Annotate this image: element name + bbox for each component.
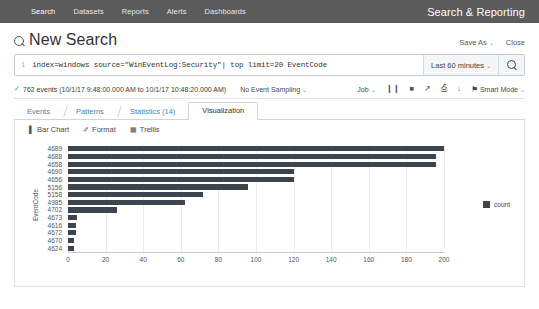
bar[interactable] bbox=[68, 223, 76, 228]
bar[interactable] bbox=[68, 162, 436, 167]
y-axis-tick-label: 4690 bbox=[15, 168, 65, 176]
bar[interactable] bbox=[68, 207, 117, 212]
search-mode-label: Smart Mode bbox=[480, 86, 518, 93]
y-axis-tick-label: 4656 bbox=[15, 176, 65, 184]
y-axis-tick-label: 4673 bbox=[15, 214, 65, 222]
bar-row bbox=[68, 168, 444, 176]
chevron-down-icon: ⌄ bbox=[520, 86, 525, 93]
legend-swatch bbox=[483, 201, 490, 208]
format-button[interactable]: ✐ Format bbox=[83, 125, 116, 134]
chevron-down-icon: ⌄ bbox=[486, 62, 491, 69]
bar[interactable] bbox=[68, 238, 74, 243]
chevron-down-icon: ⌄ bbox=[371, 86, 376, 93]
time-range-label: Last 60 minutes bbox=[431, 61, 484, 70]
event-count-text: 762 events (10/1/17 9:48:00.000 AM to 10… bbox=[23, 86, 226, 93]
tab-patterns[interactable]: Patterns bbox=[63, 104, 117, 120]
x-axis: 020406080100120140160180200 bbox=[68, 252, 444, 266]
nav-item-alerts[interactable]: Alerts bbox=[158, 3, 196, 20]
grid-icon: ▦ bbox=[130, 126, 137, 134]
y-axis-tick-label: 4658 bbox=[15, 160, 65, 168]
chart-toolbar: ▌ Bar Chart ✐ Format ▦ Trellis bbox=[15, 120, 524, 139]
bolt-icon: ⚑ bbox=[471, 85, 478, 94]
nav-item-reports[interactable]: Reports bbox=[113, 3, 158, 20]
nav-item-dashboards[interactable]: Dashboards bbox=[196, 3, 255, 20]
app-name: Search & Reporting bbox=[427, 6, 525, 18]
x-axis-tick-label: 0 bbox=[66, 256, 70, 263]
bar[interactable] bbox=[68, 246, 74, 251]
chart-area: EventCode 468946884658469046565156515849… bbox=[15, 139, 524, 271]
bar-series bbox=[68, 145, 444, 252]
bar-row bbox=[68, 198, 444, 206]
share-icon[interactable]: ↗ bbox=[424, 85, 431, 93]
tab-visualization[interactable]: Visualization bbox=[188, 102, 258, 120]
pause-icon[interactable]: ❙❙ bbox=[386, 85, 400, 93]
x-axis-tick-label: 20 bbox=[102, 256, 109, 263]
bar[interactable] bbox=[68, 177, 294, 182]
y-axis-tick-label: 4689 bbox=[15, 145, 65, 153]
query-text: index=windows source="WinEventLog:Securi… bbox=[32, 61, 327, 69]
y-axis-tick-label: 4624 bbox=[15, 244, 65, 252]
page-body: New Search Save As⌄ Close 1 index=window… bbox=[0, 23, 539, 287]
y-axis-tick-label: 4616 bbox=[15, 221, 65, 229]
bar[interactable] bbox=[68, 215, 77, 220]
chevron-down-icon: ⌄ bbox=[489, 40, 494, 46]
search-mode-selector[interactable]: ⚑Smart Mode⌄ bbox=[471, 85, 525, 94]
job-button[interactable]: Job⌄ bbox=[357, 86, 375, 93]
result-tabs: Events Patterns Statistics (14) Visualiz… bbox=[14, 103, 525, 120]
bar[interactable] bbox=[68, 230, 76, 235]
save-as-label: Save As bbox=[459, 38, 487, 47]
chart-type-button[interactable]: ▌ Bar Chart bbox=[29, 125, 69, 134]
status-bar: ✓ 762 events (10/1/17 9:48:00.000 AM to … bbox=[14, 80, 525, 99]
trellis-label: Trellis bbox=[140, 125, 160, 134]
stop-icon[interactable]: ■ bbox=[410, 85, 415, 93]
y-axis-tick-label: 4985 bbox=[15, 198, 65, 206]
bar-row bbox=[68, 237, 444, 245]
top-navbar: Search Datasets Reports Alerts Dashboard… bbox=[0, 0, 539, 23]
print-icon[interactable]: ⎙ bbox=[441, 85, 447, 93]
x-axis-tick-label: 120 bbox=[288, 256, 299, 263]
legend-label: count bbox=[494, 201, 510, 208]
bar-row bbox=[68, 214, 444, 222]
tab-events[interactable]: Events bbox=[14, 104, 63, 120]
event-sampling-dropdown[interactable]: No Event Sampling⌄ bbox=[240, 86, 307, 93]
visualization-panel: ▌ Bar Chart ✐ Format ▦ Trellis EventCode… bbox=[14, 120, 525, 287]
status-actions: Job⌄ ❙❙ ■ ↗ ⎙ ↓ ⚑Smart Mode⌄ bbox=[357, 85, 525, 94]
y-axis-tick-label: 4670 bbox=[15, 237, 65, 245]
close-button[interactable]: Close bbox=[506, 38, 525, 47]
trellis-button[interactable]: ▦ Trellis bbox=[130, 125, 160, 134]
y-axis-ticks: 4689468846584690465651565158498547024673… bbox=[15, 145, 65, 252]
bar[interactable] bbox=[68, 146, 444, 151]
check-icon: ✓ bbox=[14, 85, 20, 93]
tab-statistics[interactable]: Statistics (14) bbox=[117, 104, 188, 120]
title-row: New Search Save As⌄ Close bbox=[14, 23, 525, 52]
bar[interactable] bbox=[68, 169, 294, 174]
nav-item-search[interactable]: Search bbox=[22, 3, 64, 20]
nav-item-datasets[interactable]: Datasets bbox=[64, 3, 112, 20]
x-axis-tick-label: 80 bbox=[215, 256, 222, 263]
time-range-picker[interactable]: Last 60 minutes⌄ bbox=[423, 55, 498, 75]
bar-row bbox=[68, 176, 444, 184]
search-icon bbox=[507, 60, 517, 70]
bar-row bbox=[68, 244, 444, 252]
bar[interactable] bbox=[68, 154, 436, 159]
y-axis-tick-label: 5158 bbox=[15, 191, 65, 199]
run-search-button[interactable] bbox=[498, 55, 524, 75]
x-axis-tick-label: 200 bbox=[439, 256, 450, 263]
bar-row bbox=[68, 229, 444, 237]
pencil-icon: ✐ bbox=[83, 126, 89, 134]
bar[interactable] bbox=[68, 192, 203, 197]
bar[interactable] bbox=[68, 200, 185, 205]
save-as-button[interactable]: Save As⌄ bbox=[459, 38, 494, 47]
bar-row bbox=[68, 183, 444, 191]
line-number: 1 bbox=[21, 61, 25, 69]
query-input[interactable]: 1 index=windows source="WinEventLog:Secu… bbox=[15, 55, 423, 75]
x-axis-tick-label: 180 bbox=[401, 256, 412, 263]
x-axis-tick-label: 60 bbox=[177, 256, 184, 263]
bar[interactable] bbox=[68, 184, 248, 189]
bar-row bbox=[68, 153, 444, 161]
search-bar: 1 index=windows source="WinEventLog:Secu… bbox=[14, 54, 525, 76]
bar-chart-icon: ▌ bbox=[29, 126, 34, 133]
x-axis-tick-label: 40 bbox=[140, 256, 147, 263]
chart-legend: count bbox=[483, 201, 510, 208]
export-icon[interactable]: ↓ bbox=[457, 85, 461, 93]
